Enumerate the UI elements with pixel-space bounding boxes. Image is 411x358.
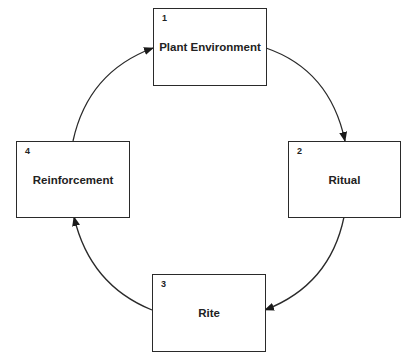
node-number: 1 <box>162 13 167 23</box>
node-number: 2 <box>297 146 302 156</box>
node-label: Rite <box>153 307 265 319</box>
arrow-4-to-1 <box>73 48 153 141</box>
node-reinforcement: 4 Reinforcement <box>16 141 130 218</box>
node-ritual: 2 Ritual <box>288 141 401 218</box>
node-number: 3 <box>161 279 166 289</box>
node-plant-environment: 1 Plant Environment <box>153 8 267 86</box>
node-label: Ritual <box>289 174 400 186</box>
node-label: Plant Environment <box>154 41 266 53</box>
arrow-3-to-4 <box>74 217 152 310</box>
arrow-1-to-2 <box>266 48 345 141</box>
arrow-2-to-3 <box>265 217 344 310</box>
node-rite: 3 Rite <box>152 274 266 352</box>
node-number: 4 <box>25 146 30 156</box>
node-label: Reinforcement <box>17 174 129 186</box>
